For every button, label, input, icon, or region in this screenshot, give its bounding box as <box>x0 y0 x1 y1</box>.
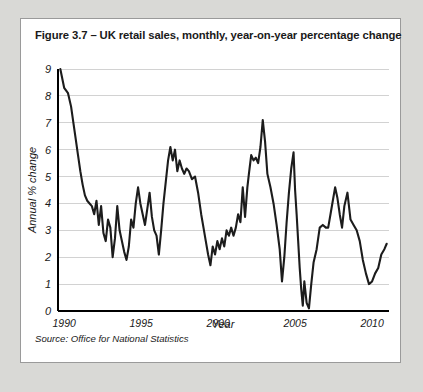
gridlines-group <box>58 69 389 284</box>
x-tick-label: 2005 <box>282 317 307 329</box>
x-tick-label: 2010 <box>359 317 384 329</box>
y-axis-title: Annual % change <box>26 147 38 234</box>
y-tick-label: 5 <box>45 171 52 183</box>
y-tick-label: 4 <box>45 197 51 209</box>
y-tick-label: 6 <box>45 144 52 156</box>
y-axis-tick-labels: 0123456789 <box>44 63 52 317</box>
x-tick-label: 1995 <box>129 317 153 329</box>
y-tick-label: 9 <box>45 63 51 75</box>
chart-plot-area: 0123456789 19901995200020052010 Annual %… <box>21 47 402 329</box>
y-tick-label: 2 <box>44 251 51 263</box>
y-tick-label: 3 <box>45 224 52 236</box>
y-tick-label: 0 <box>45 305 52 317</box>
figure-card: Figure 3.7 – UK retail sales, monthly, y… <box>20 18 401 363</box>
y-tick-label: 8 <box>45 90 52 102</box>
line-chart: 0123456789 19901995200020052010 Annual %… <box>21 47 402 329</box>
y-tick-label: 7 <box>45 117 52 129</box>
data-series-line <box>60 69 386 308</box>
x-axis-title: Year <box>212 318 236 329</box>
source-note: Source: Office for National Statistics <box>35 333 189 344</box>
x-tick-label: 1990 <box>52 317 76 329</box>
figure-title: Figure 3.7 – UK retail sales, monthly, y… <box>35 29 393 41</box>
y-tick-label: 1 <box>45 278 51 290</box>
